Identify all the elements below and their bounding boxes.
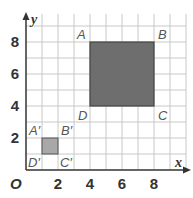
square-ABCD [90,42,154,106]
y-tick-4: 4 [11,97,20,114]
vertex-label-A-prime: A′ [28,123,41,138]
coordinate-plane: y x O 2 4 6 8 2 4 6 8 A B C D A′ B′ C′ D… [0,0,193,198]
vertex-label-D-prime: D′ [28,155,40,170]
x-axis-label: x [174,155,182,170]
y-axis-label: y [29,12,38,27]
vertex-label-C-prime: C′ [60,155,72,170]
y-tick-2: 2 [11,129,19,146]
y-tick-8: 8 [11,33,19,50]
square-A-prime-B-prime-C-prime-D-prime [42,138,58,154]
x-tick-4: 4 [86,175,95,192]
x-tick-6: 6 [118,175,126,192]
y-axis-arrow-icon [23,12,30,20]
x-tick-8: 8 [150,175,158,192]
vertex-label-C: C [158,108,168,123]
vertex-label-B-prime: B′ [61,123,73,138]
x-tick-2: 2 [54,175,62,192]
vertex-label-A: A [76,27,86,42]
y-tick-6: 6 [11,65,19,82]
vertex-label-B: B [158,27,167,42]
x-axis-arrow-icon [183,167,191,174]
origin-label: O [10,175,22,192]
vertex-label-D: D [78,108,87,123]
